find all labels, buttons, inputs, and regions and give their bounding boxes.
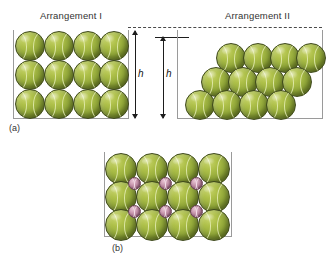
height-label-right: h — [166, 68, 172, 79]
small-sphere — [190, 205, 203, 218]
arrangement-2-left-border — [177, 30, 178, 119]
large-sphere — [44, 60, 74, 90]
large-sphere — [266, 90, 296, 120]
large-sphere — [99, 89, 129, 119]
small-sphere — [128, 177, 141, 190]
large-sphere — [185, 90, 215, 120]
small-sphere — [128, 205, 141, 218]
large-sphere — [198, 209, 230, 241]
panel-a-caption: (a) — [9, 123, 20, 133]
top-reference-dashed-line — [128, 27, 322, 28]
large-sphere — [99, 60, 129, 90]
large-sphere — [15, 89, 45, 119]
height-label-left: h — [138, 68, 144, 79]
large-sphere — [15, 31, 45, 61]
sphere-packing-figure: Arrangement I Arrangement II h — [0, 0, 336, 262]
large-sphere — [239, 90, 269, 120]
panel-b-caption: (b) — [112, 243, 123, 253]
large-sphere — [15, 60, 45, 90]
height-dimension-arrow-left — [135, 31, 136, 118]
small-sphere — [159, 177, 172, 190]
small-sphere — [159, 205, 172, 218]
large-sphere — [99, 31, 129, 61]
small-sphere — [190, 177, 203, 190]
height-dimension-arrow-right — [163, 37, 164, 118]
arrangement-2-title: Arrangement II — [225, 10, 290, 21]
large-sphere — [44, 31, 74, 61]
large-sphere — [212, 90, 242, 120]
large-sphere — [44, 89, 74, 119]
arrangement-1-title: Arrangement I — [40, 10, 102, 21]
panel-b-right-border — [231, 152, 232, 237]
arrangement-1-left-border — [13, 30, 14, 119]
